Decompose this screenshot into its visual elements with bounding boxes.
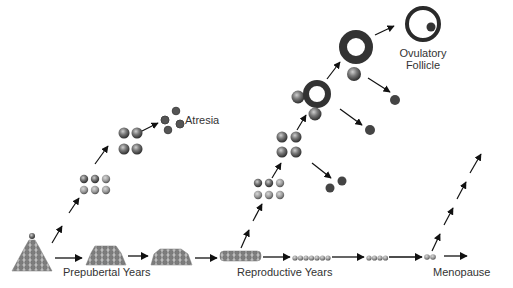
atresia-icon [161,107,184,134]
reproductive-pool-3 [366,255,388,260]
reproductive-pool-1 [220,251,261,261]
prepubertal-pool-2 [151,249,192,265]
antral-follicles [292,34,370,121]
reproductive-branch-arrows [241,26,394,248]
ovulatory-follicle-label-line2: Follicle [398,59,448,71]
prepubertal-growing-follicles [119,128,143,155]
reproductive-small-follicles [254,179,284,199]
prepubertal-pool-1 [86,246,126,265]
menopause-label: Menopause [433,266,491,278]
reproductive-growing-follicles [277,132,302,158]
menopause-pool [424,254,436,260]
prepubertal-small-follicles [80,175,110,194]
ovulatory-follicle-label: Ovulatory Follicle [398,47,448,71]
reproductive-pool-2 [292,255,330,260]
atresia-label: Atresia [185,114,219,126]
birth-pool-pyramid [12,233,52,271]
prepubertal-years-label: Prepubertal Years [63,266,150,278]
ovulatory-follicle-icon [407,8,439,40]
atretic-follicles [326,95,401,193]
follicle-diagram [0,0,513,288]
ovulatory-follicle-label-line1: Ovulatory [398,47,448,59]
menopause-branch-arrows [432,154,481,251]
reproductive-years-label: Reproductive Years [237,266,332,278]
